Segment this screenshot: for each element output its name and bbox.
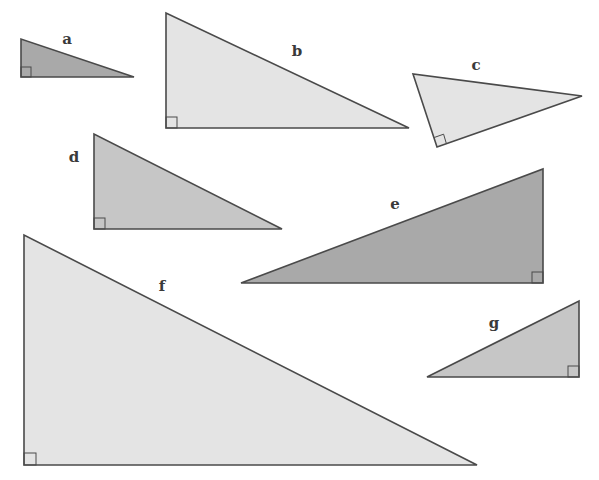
- right-triangles-figure: a b c d e f g: [0, 0, 599, 480]
- triangle-e-shape: [241, 169, 543, 283]
- triangle-d-shape: [94, 134, 282, 229]
- triangle-g-shape: [427, 301, 579, 377]
- triangle-a-label: a: [62, 30, 72, 48]
- triangle-b-shape: [166, 13, 409, 128]
- triangle-a-shape: [21, 39, 134, 77]
- triangle-e: e: [241, 169, 543, 283]
- triangle-d: d: [69, 134, 282, 229]
- triangle-a: a: [21, 30, 134, 77]
- triangle-b-label: b: [292, 42, 303, 60]
- triangle-g-label: g: [489, 314, 500, 332]
- triangle-c-label: c: [471, 56, 480, 74]
- triangle-f-label: f: [159, 277, 167, 295]
- triangle-d-label: d: [69, 148, 80, 166]
- triangle-e-label: e: [390, 195, 400, 213]
- triangle-c: c: [413, 56, 582, 147]
- triangle-b: b: [166, 13, 409, 128]
- triangle-g: g: [427, 301, 579, 377]
